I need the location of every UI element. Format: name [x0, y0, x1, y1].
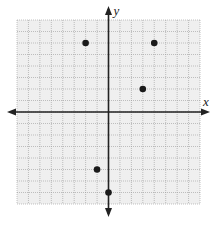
y-axis-arrow-top	[105, 6, 112, 15]
y-axis-label: y	[112, 3, 120, 18]
x-axis-arrow-right	[201, 109, 210, 116]
coordinate-plane: x y	[0, 0, 217, 225]
y-axis-arrow-bottom	[105, 208, 112, 217]
x-axis-arrow-left	[7, 109, 16, 116]
data-point	[140, 86, 147, 93]
data-point	[151, 40, 158, 47]
x-axis-label: x	[202, 94, 209, 109]
data-point	[94, 166, 101, 173]
data-point	[82, 40, 89, 47]
data-point	[105, 189, 112, 196]
